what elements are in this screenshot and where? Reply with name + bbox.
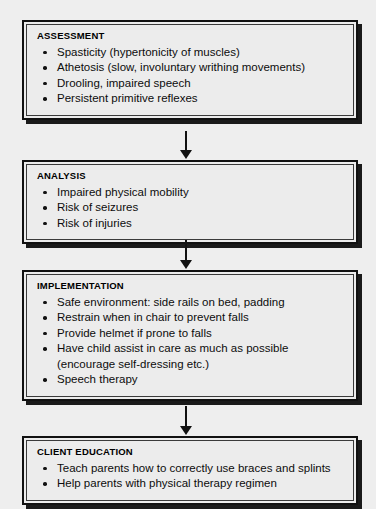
list-item: Restrain when in chair to prevent falls <box>37 310 343 326</box>
list-item-text: Spasticity (hypertonicity of muscles) <box>57 46 240 58</box>
list-item-text: Speech therapy <box>57 373 138 385</box>
list-item: Persistent primitive reflexes <box>37 91 343 107</box>
list-item: Impaired physical mobility <box>37 185 343 201</box>
list-item: Risk of injuries <box>37 216 343 232</box>
list-item-text: Athetosis (slow, involuntary writhing mo… <box>57 61 305 73</box>
node-box-inner: IMPLEMENTATION Safe environment: side ra… <box>26 274 354 397</box>
node-title-assessment: ASSESSMENT <box>37 31 343 42</box>
arrow-shaft <box>185 131 187 151</box>
node-title-analysis: ANALYSIS <box>37 171 343 182</box>
list-item-text: Risk of injuries <box>57 217 132 229</box>
arrow-head <box>180 426 192 435</box>
flowchart-node-client-education: CLIENT EDUCATION Teach parents how to co… <box>22 436 358 505</box>
bullet-icon <box>43 97 47 101</box>
list-item: Risk of seizures <box>37 200 343 216</box>
list-item: Have child assist in care as much as pos… <box>37 341 343 372</box>
list-item-text: Risk of seizures <box>57 201 138 213</box>
node-box-inner: ANALYSIS Impaired physical mobility Risk… <box>26 164 354 240</box>
connector-arrow-down-icon <box>179 406 193 435</box>
node-title-implementation: IMPLEMENTATION <box>37 281 343 292</box>
bullet-icon <box>43 482 47 486</box>
list-item-text: Restrain when in chair to prevent falls <box>57 311 249 323</box>
connector-arrow-down-icon <box>179 131 193 159</box>
list-item: Speech therapy <box>37 372 343 388</box>
bullet-icon <box>43 206 47 210</box>
list-item-text: Safe environment: side rails on bed, pad… <box>57 296 285 308</box>
list-item: Teach parents how to correctly use brace… <box>37 461 343 477</box>
bullet-icon <box>43 82 47 86</box>
node-box-inner: CLIENT EDUCATION Teach parents how to co… <box>26 440 354 501</box>
node-item-list: Impaired physical mobility Risk of seizu… <box>37 185 343 232</box>
arrow-shaft <box>185 406 187 427</box>
flowchart-node-analysis: ANALYSIS Impaired physical mobility Risk… <box>22 160 358 244</box>
list-item: Help parents with physical therapy regim… <box>37 476 343 492</box>
node-item-list: Teach parents how to correctly use brace… <box>37 461 343 492</box>
bullet-icon <box>43 301 47 305</box>
list-item: Drooling, impaired speech <box>37 76 343 92</box>
list-item-text: Drooling, impaired speech <box>57 77 191 89</box>
flowchart-node-implementation: IMPLEMENTATION Safe environment: side ra… <box>22 270 358 401</box>
list-item-continuation-text: (encourage self-dressing etc.) <box>57 357 343 373</box>
bullet-icon <box>43 316 47 320</box>
list-item-text: Have child assist in care as much as pos… <box>57 342 288 354</box>
arrow-head <box>180 150 192 159</box>
list-item-text: Help parents with physical therapy regim… <box>57 477 277 489</box>
list-item: Safe environment: side rails on bed, pad… <box>37 295 343 311</box>
node-box: CLIENT EDUCATION Teach parents how to co… <box>22 436 358 505</box>
node-item-list: Spasticity (hypertonicity of muscles) At… <box>37 45 343 107</box>
list-item: Spasticity (hypertonicity of muscles) <box>37 45 343 61</box>
node-box: ASSESSMENT Spasticity (hypertonicity of … <box>22 20 358 120</box>
list-item-text: Teach parents how to correctly use brace… <box>57 462 331 474</box>
list-item-text: Impaired physical mobility <box>57 186 189 198</box>
flowchart-node-assessment: ASSESSMENT Spasticity (hypertonicity of … <box>22 20 358 120</box>
connector-arrow-down-icon <box>179 240 193 269</box>
bullet-icon <box>43 66 47 70</box>
node-title-client-education: CLIENT EDUCATION <box>37 447 343 458</box>
bullet-icon <box>43 467 47 471</box>
bullet-icon <box>43 222 47 226</box>
list-item-text: Persistent primitive reflexes <box>57 92 198 104</box>
bullet-icon <box>43 347 47 351</box>
node-box: IMPLEMENTATION Safe environment: side ra… <box>22 270 358 401</box>
node-box: ANALYSIS Impaired physical mobility Risk… <box>22 160 358 244</box>
node-item-list: Safe environment: side rails on bed, pad… <box>37 295 343 388</box>
node-box-inner: ASSESSMENT Spasticity (hypertonicity of … <box>26 24 354 116</box>
arrow-head <box>180 260 192 269</box>
bullet-icon <box>43 332 47 336</box>
list-item: Athetosis (slow, involuntary writhing mo… <box>37 60 343 76</box>
bullet-icon <box>43 191 47 195</box>
list-item-text: Provide helmet if prone to falls <box>57 327 212 339</box>
arrow-shaft <box>185 240 187 261</box>
bullet-icon <box>43 378 47 382</box>
bullet-icon <box>43 51 47 55</box>
list-item: Provide helmet if prone to falls <box>37 326 343 342</box>
